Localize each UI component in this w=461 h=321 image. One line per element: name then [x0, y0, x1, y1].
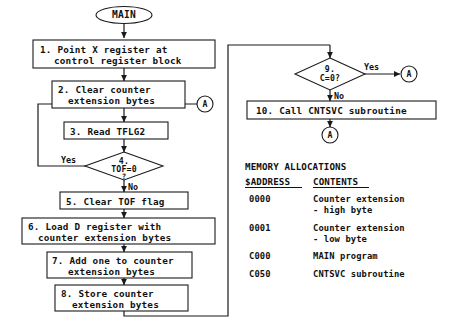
memory-row-contents-line2: - low byte [313, 234, 367, 244]
process-step-7-line1: 7. Add one to counter [52, 255, 174, 266]
process-step-2-line1: 2. Clear counter [58, 84, 151, 95]
process-step-1-line1: 1. Point X register at [40, 44, 168, 55]
connector-a-yes-label: A [406, 69, 411, 79]
decision-step-4-yes-label: Yes [61, 155, 76, 165]
decision-step-4-line3: ? [122, 172, 127, 181]
memory-row-address: C050 [249, 269, 271, 279]
connector-a-right-label: A [202, 99, 207, 109]
process-step-6-line2: counter extension bytes [38, 232, 171, 243]
memory-row-address: 0000 [249, 194, 271, 204]
memory-row-contents-line1: Counter extension [313, 194, 405, 204]
process-step-8-line2: extension bytes [72, 299, 159, 310]
connector-a-bottom-label: A [327, 130, 332, 140]
process-step-5-line1: 5. Clear TOF flag [66, 196, 165, 207]
process-step-8-line1: 8. Store counter [61, 288, 154, 299]
memory-row-contents-line1: CNTSVC subroutine [313, 269, 405, 279]
process-step-1-line2: control register block [54, 55, 182, 66]
decision-step-9-yes-label: Yes [364, 62, 379, 72]
memory-row-contents-line1: MAIN program [313, 251, 378, 261]
memory-row-address: 0001 [249, 223, 271, 233]
process-step-6-line1: 6. Load D register with [28, 221, 161, 232]
process-step-2-line2: extension bytes [68, 95, 155, 106]
decision-step-9-no-label: No [334, 91, 344, 101]
process-step-7-line2: extension bytes [68, 266, 155, 277]
memory-row-contents-line1: Counter extension [313, 223, 405, 233]
process-step-10-line1: 10. Call CNTSVC subroutine [256, 105, 407, 116]
decision-step-4-no-label: No [128, 182, 138, 192]
flowchart-page: MAIN 1. Point X register at control regi… [0, 0, 461, 321]
memory-row-address: C000 [249, 251, 271, 261]
terminal-main-label: MAIN [112, 9, 136, 20]
memory-header-address: $ADDRESS [245, 176, 290, 187]
memory-table-title: MEMORY ALLOCATIONS [245, 161, 346, 172]
memory-header-contents: CONTENTS [313, 176, 358, 187]
process-step-3-line1: 3. Read TFLG2 [70, 126, 145, 137]
memory-row-contents-line2: - high byte [313, 205, 372, 215]
decision-step-9-line2: C=0? [320, 73, 341, 83]
flowchart-canvas: MAIN 1. Point X register at control regi… [0, 0, 461, 321]
